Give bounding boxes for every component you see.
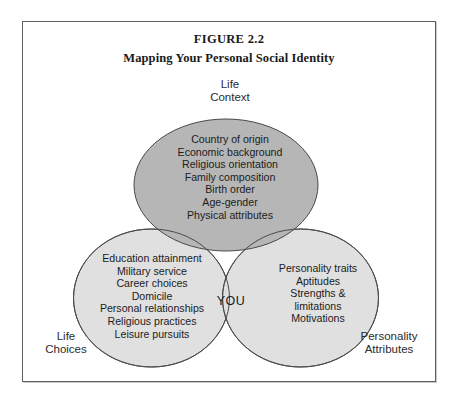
label-you: YOU bbox=[201, 295, 261, 308]
list-item: Economic background bbox=[154, 146, 306, 159]
list-item: Aptitudes bbox=[251, 275, 385, 288]
list-item: limitations bbox=[251, 300, 385, 313]
label-life-context: Life Context bbox=[180, 78, 280, 104]
list-item: Personality traits bbox=[251, 262, 385, 275]
list-item: Career choices bbox=[73, 277, 231, 290]
label-personality-attributes: Personality Attributes bbox=[341, 330, 437, 356]
figure-page: FIGURE 2.2 Mapping Your Personal Social … bbox=[0, 0, 459, 409]
list-item: Family composition bbox=[154, 171, 306, 184]
list-item: Birth order bbox=[154, 183, 306, 196]
list-item: Leisure pursuits bbox=[73, 328, 231, 341]
list-item: Military service bbox=[73, 265, 231, 278]
list-item: Religious practices bbox=[73, 315, 231, 328]
items-personality-attributes: Personality traitsAptitudesStrengths &li… bbox=[251, 262, 385, 325]
figure-frame: FIGURE 2.2 Mapping Your Personal Social … bbox=[22, 21, 436, 382]
list-item: Physical attributes bbox=[154, 209, 306, 222]
list-item: Strengths & bbox=[251, 287, 385, 300]
list-item: Education attainment bbox=[73, 252, 231, 265]
list-item: Age-gender bbox=[154, 196, 306, 209]
items-life-context: Country of originEconomic backgroundReli… bbox=[154, 133, 306, 221]
list-item: Religious orientation bbox=[154, 158, 306, 171]
list-item: Motivations bbox=[251, 312, 385, 325]
list-item: Country of origin bbox=[154, 133, 306, 146]
